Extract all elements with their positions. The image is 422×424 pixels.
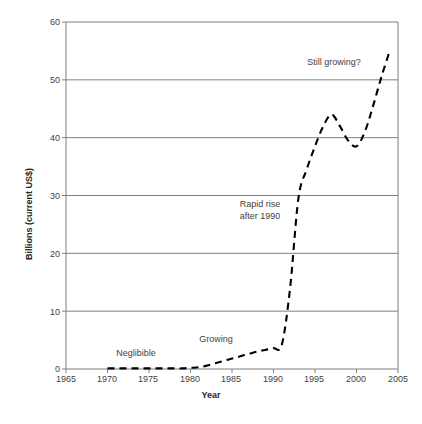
y-axis-title: Billions (current US$) <box>24 168 34 260</box>
annotation-rapid-rise-line1: Rapid rise <box>230 199 290 209</box>
y-tick-label-10: 10 <box>34 307 60 317</box>
y-tick-label-30: 30 <box>34 191 60 201</box>
x-tick-label-1975: 1975 <box>128 374 168 384</box>
x-tick-label-1980: 1980 <box>170 374 210 384</box>
annotation-rapid-rise-line2: after 1990 <box>230 211 290 221</box>
chart-container: 60 50 40 30 20 10 0 1965 1970 1975 1980 … <box>0 0 422 424</box>
x-tick-label-1970: 1970 <box>87 374 127 384</box>
x-axis-title: Year <box>0 390 422 400</box>
annotation-growing: Growing <box>188 334 244 344</box>
x-tick-label-1990: 1990 <box>253 374 293 384</box>
y-tick-label-60: 60 <box>34 17 60 27</box>
y-tick-label-40: 40 <box>34 133 60 143</box>
annotation-still-growing: Still growing? <box>296 57 372 67</box>
y-tick-label-20: 20 <box>34 249 60 259</box>
y-tick-marks-group <box>62 22 66 369</box>
y-tick-label-50: 50 <box>34 75 60 85</box>
annotation-negligible: Neglibible <box>105 348 167 358</box>
x-tick-label-2000: 2000 <box>336 374 376 384</box>
x-tick-marks-group <box>66 369 398 373</box>
x-tick-label-1965: 1965 <box>46 374 86 384</box>
x-tick-label-1995: 1995 <box>294 374 334 384</box>
x-tick-label-1985: 1985 <box>211 374 251 384</box>
y-tick-label-0: 0 <box>34 364 60 374</box>
x-tick-label-2005: 2005 <box>378 374 418 384</box>
